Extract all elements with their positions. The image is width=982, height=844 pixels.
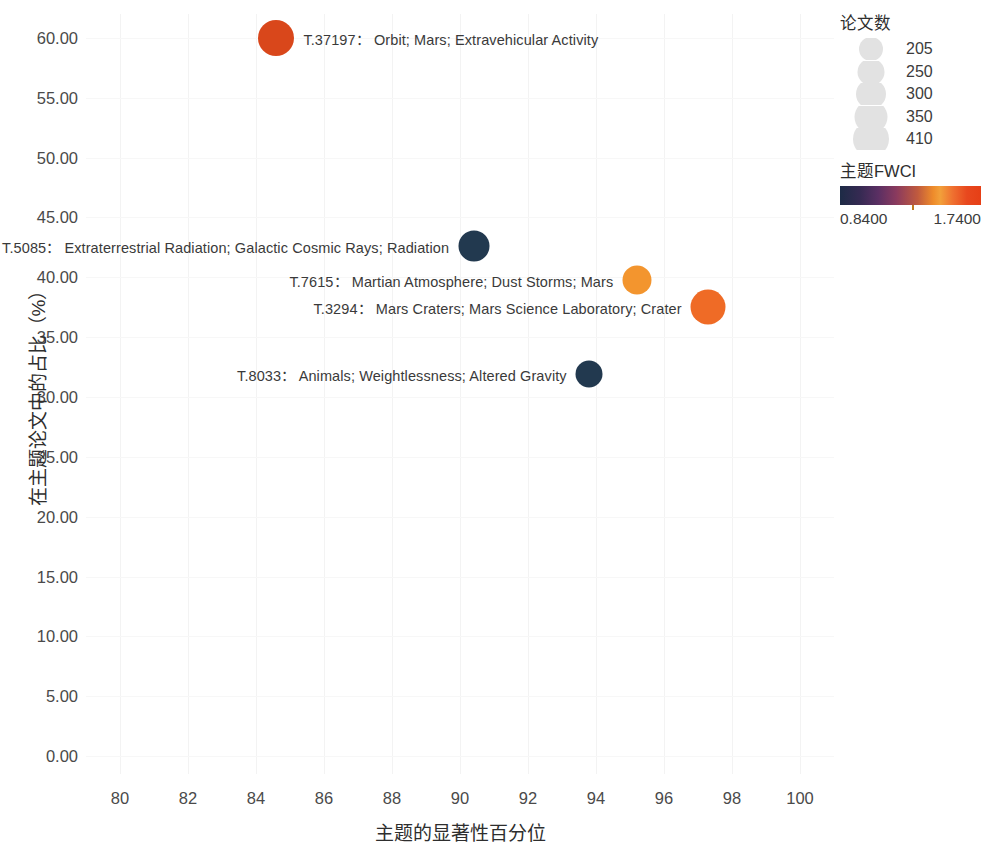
size-legend-item: 410 [840, 128, 982, 150]
x-axis-tick-label: 82 [179, 789, 197, 808]
gridline-vertical [732, 14, 733, 774]
size-legend-swatch [840, 38, 902, 60]
bubble-t-7615[interactable] [622, 265, 651, 294]
gridline-horizontal [86, 517, 834, 518]
size-legend-label: 410 [906, 130, 933, 148]
colorbar-min-label: 0.8400 [840, 210, 887, 228]
y-axis-tick-label: 0.00 [0, 747, 78, 766]
gridline-horizontal [86, 397, 834, 398]
colorbar-gradient [840, 186, 981, 205]
x-axis-title: 主题的显著性百分位 [86, 818, 834, 844]
x-axis-tick-label: 90 [451, 789, 469, 808]
colorbar-max-label: 1.7400 [934, 210, 981, 228]
gridline-horizontal [86, 577, 834, 578]
x-axis-tick-label: 92 [519, 789, 537, 808]
y-axis-tick-label: 15.00 [0, 567, 78, 586]
gridline-vertical [800, 14, 801, 774]
size-legend-label: 300 [906, 85, 933, 103]
x-axis-tick-label: 98 [723, 789, 741, 808]
bubble-t-37197[interactable] [258, 20, 294, 56]
y-axis-tick-label: 60.00 [0, 28, 78, 47]
gridline-vertical [188, 14, 189, 774]
size-legend-item: 350 [840, 106, 982, 128]
gridline-horizontal [86, 457, 834, 458]
gridline-horizontal [86, 696, 834, 697]
x-axis-tick-label: 96 [655, 789, 673, 808]
size-legend-swatch [840, 61, 902, 83]
size-legend-bubble [858, 61, 885, 83]
size-legend-item: 205 [840, 38, 982, 60]
gridline-vertical [596, 14, 597, 774]
x-axis-tick-label: 80 [111, 789, 129, 808]
size-legend-label: 250 [906, 63, 933, 81]
gridline-vertical [664, 14, 665, 774]
gridline-horizontal [86, 217, 834, 218]
size-legend-bubble [855, 106, 888, 128]
y-axis-tick-label: 45.00 [0, 208, 78, 227]
x-axis-tick-label: 84 [247, 789, 265, 808]
gridline-vertical [256, 14, 257, 774]
y-axis-tick-label: 10.00 [0, 627, 78, 646]
y-axis-tick-label: 50.00 [0, 148, 78, 167]
size-legend-label: 350 [906, 108, 933, 126]
y-axis-title: 在主题论文中的占比（%） [23, 264, 50, 524]
color-legend-title: 主题FWCI [840, 158, 982, 182]
point-label-t-3294: T.3294： Mars Craters; Mars Science Labor… [313, 297, 681, 318]
bubble-t-3294[interactable] [691, 290, 726, 325]
size-legend-swatch [840, 106, 902, 128]
x-axis-tick-label: 88 [383, 789, 401, 808]
x-axis-tick-label: 86 [315, 789, 333, 808]
gridline-vertical [324, 14, 325, 774]
y-axis-tick-label: 5.00 [0, 687, 78, 706]
color-legend: 主题FWCI 0.8400 1.7400 [840, 158, 982, 230]
gridline-vertical [460, 14, 461, 774]
y-axis-tick-label: 55.00 [0, 88, 78, 107]
x-axis-ticks: 80828486889092949698100 [86, 789, 834, 813]
gridline-vertical [392, 14, 393, 774]
colorbar-scale: 0.8400 1.7400 [840, 210, 981, 230]
gridline-horizontal [86, 158, 834, 159]
size-legend-items: 205250300350410 [840, 38, 982, 154]
size-legend-swatch [840, 128, 902, 150]
point-label-t-37197: T.37197： Orbit; Mars; Extravehicular Act… [303, 27, 598, 48]
size-legend-bubble [856, 83, 886, 105]
x-axis-tick-label: 94 [587, 789, 605, 808]
gridline-horizontal [86, 636, 834, 637]
size-legend-bubble [853, 128, 889, 150]
bubble-chart: T.37197： Orbit; Mars; Extravehicular Act… [0, 0, 982, 844]
bubble-t-8033[interactable] [576, 361, 603, 388]
gridline-vertical [528, 14, 529, 774]
size-legend: 论文数 205250300350410 [840, 10, 982, 154]
gridline-horizontal [86, 756, 834, 757]
point-label-t-7615: T.7615： Martian Atmosphere; Dust Storms;… [289, 269, 613, 290]
size-legend-label: 205 [906, 40, 933, 58]
size-legend-item: 250 [840, 61, 982, 83]
gridline-horizontal [86, 337, 834, 338]
gridline-vertical [120, 14, 121, 774]
x-axis-tick-label: 100 [786, 789, 814, 808]
size-legend-swatch [840, 83, 902, 105]
size-legend-bubble [859, 38, 883, 60]
gridline-horizontal [86, 98, 834, 99]
size-legend-item: 300 [840, 83, 982, 105]
point-label-t-8033: T.8033： Animals; Weightlessness; Altered… [237, 364, 567, 385]
bubble-t-5085[interactable] [458, 231, 489, 262]
plot-area: T.37197： Orbit; Mars; Extravehicular Act… [86, 14, 834, 774]
size-legend-title: 论文数 [840, 10, 982, 34]
